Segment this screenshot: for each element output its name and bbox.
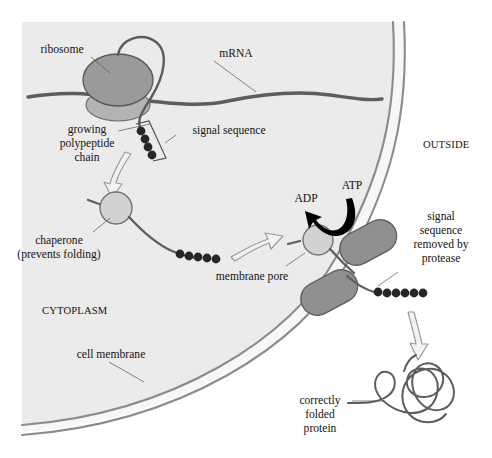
label-chaperone-line-1: chaperone [35,234,83,247]
label-signal-removed-line-4: protease [422,252,461,265]
label-folded-line-2: folded [305,408,335,421]
label-cell-membrane: cell membrane [77,348,146,361]
bead [203,254,212,263]
bead [144,143,153,152]
chaperone-circle-1 [100,192,132,224]
protein-secretion-diagram: ribosome mRNA growing polypeptide chain … [0,0,492,458]
bead [176,250,185,259]
label-adp: ADP [294,192,317,205]
bead [383,289,392,298]
bead [392,289,401,298]
label-growing-line-1: growing [68,123,107,136]
bead [185,252,194,261]
label-chaperone-line-2: (prevents folding) [17,248,101,261]
label-growing-line-3: chain [74,151,99,164]
label-folded-line-3: protein [304,422,337,435]
bead [141,135,150,144]
label-outside: OUTSIDE [423,139,469,150]
bead [194,253,203,262]
diagram-canvas: ribosome mRNA growing polypeptide chain … [0,0,492,458]
bead [137,127,146,136]
label-mrna: mRNA [219,47,253,60]
bead [148,151,157,160]
label-folded-line-1: correctly [299,394,340,407]
bead [410,289,419,298]
label-signal-removed-line-2: sequence [420,224,463,237]
label-signal-sequence: signal sequence [192,124,265,137]
ribosome-large-subunit [83,54,153,106]
bead [212,255,221,264]
label-membrane-pore: membrane pore [216,270,288,283]
bead [419,289,428,298]
label-signal-removed-line-3: removed by [413,238,468,251]
label-cytoplasm: CYTOPLASM [42,305,108,316]
chaperone-circle-2 [303,225,333,255]
label-ribosome: ribosome [40,43,83,56]
label-signal-removed-line-1: signal [427,210,455,223]
label-growing-line-2: polypeptide [60,137,115,150]
bead [374,288,383,297]
bead [401,289,410,298]
label-atp: ATP [342,179,363,192]
cell-regions [0,0,492,458]
